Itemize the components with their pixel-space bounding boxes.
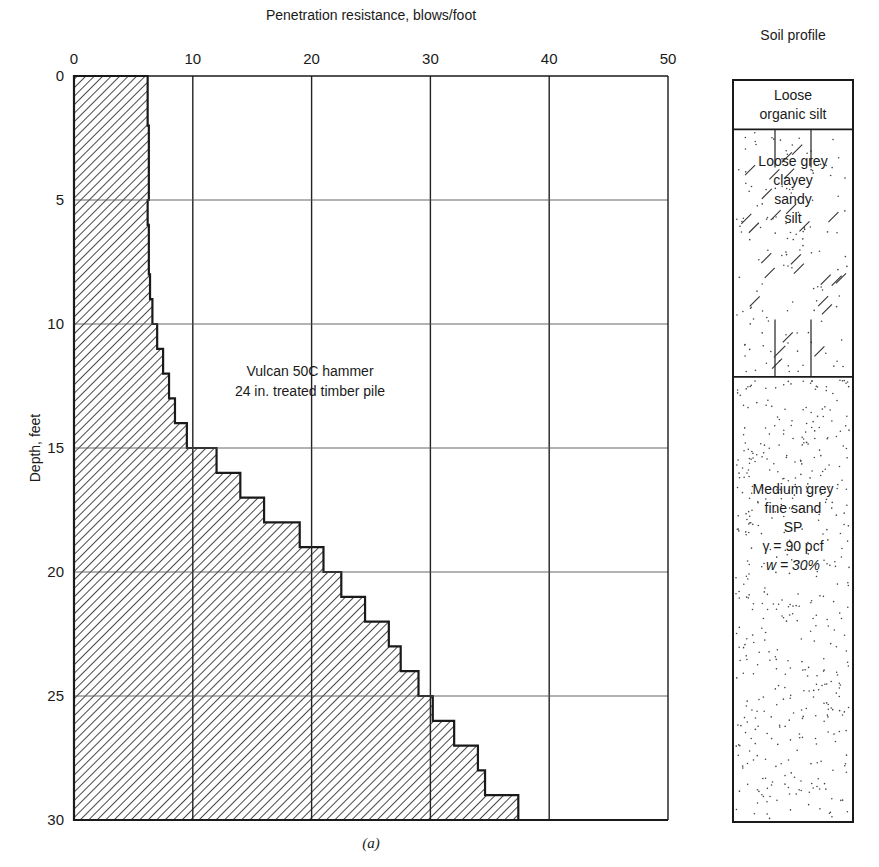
annotation-line-2: 24 in. treated timber pile — [235, 383, 385, 399]
x-axis-title: Penetration resistance, blows/foot — [266, 7, 476, 23]
y-tick-label: 0 — [56, 67, 64, 84]
hammer-annotation: Vulcan 50C hammer 24 in. treated timber … — [235, 363, 385, 399]
soil-layer-label: Medium grey — [753, 481, 834, 497]
y-tick-labels: 051015202530 — [47, 67, 64, 828]
x-tick-label: 10 — [184, 50, 201, 67]
figure-caption: (a) — [362, 835, 380, 852]
y-tick-label: 10 — [47, 315, 64, 332]
y-tick-label: 15 — [47, 439, 64, 456]
soil-layer-label: SP — [784, 519, 803, 535]
soil-layer-label: w = 30% — [766, 557, 820, 573]
soil-profile: Soil profile Looseorganic siltLoose grey… — [733, 27, 853, 822]
x-tick-label: 50 — [660, 50, 677, 67]
soil-layer-label: organic silt — [760, 106, 827, 122]
penetration-chart: Penetration resistance, blows/foot Depth… — [0, 0, 879, 867]
y-tick-label: 30 — [47, 811, 64, 828]
soil-layer-label: fine sand — [765, 500, 822, 516]
y-tick-label: 25 — [47, 687, 64, 704]
x-tick-label: 0 — [70, 50, 78, 67]
soil-layer: Looseorganic silt — [760, 87, 827, 122]
x-tick-labels: 01020304050 — [70, 50, 677, 67]
x-tick-label: 30 — [422, 50, 439, 67]
soil-layer-label: Loose — [774, 87, 812, 103]
soil-profile-title: Soil profile — [760, 27, 826, 43]
y-axis-title: Depth, feet — [27, 414, 43, 483]
annotation-line-1: Vulcan 50C hammer — [246, 363, 373, 379]
soil-layer-label: Loose grey — [758, 153, 827, 169]
soil-layer: Medium greyfine sandSPγ = 90 pcfw = 30% — [753, 481, 834, 573]
soil-layer-label: γ = 90 pcf — [762, 538, 823, 554]
soil-layer-label: clayey — [773, 172, 813, 188]
y-tick-label: 5 — [56, 191, 64, 208]
soil-layer-label: silt — [784, 210, 801, 226]
x-tick-label: 40 — [541, 50, 558, 67]
soil-patterns — [735, 129, 850, 819]
soil-layers: Looseorganic siltLoose greyclayeysandysi… — [733, 80, 853, 822]
x-tick-label: 20 — [303, 50, 320, 67]
y-tick-label: 20 — [47, 563, 64, 580]
soil-layer-label: sandy — [774, 191, 811, 207]
